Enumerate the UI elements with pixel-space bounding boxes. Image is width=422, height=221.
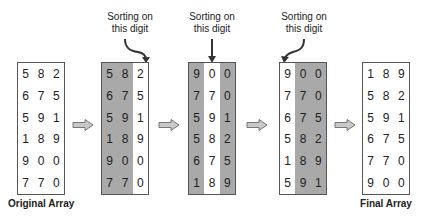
digit-cell: 7 xyxy=(102,172,117,194)
right-arrow-icon xyxy=(72,119,94,131)
step2-array-box: 900770591582675189 xyxy=(188,62,236,195)
digit-cell: 6 xyxy=(363,129,378,151)
annotation-line1: Sorting on xyxy=(269,11,339,23)
step1-array-box: 582675591189900770 xyxy=(101,62,149,195)
digit-cell: 5 xyxy=(189,107,204,129)
digit-cell: 2 xyxy=(394,85,409,107)
digit-cell: 1 xyxy=(49,107,64,129)
digit-cell: 0 xyxy=(394,150,409,172)
digit-cell: 0 xyxy=(394,172,409,194)
digit-cell: 2 xyxy=(220,129,235,151)
digit-cell: 7 xyxy=(117,172,132,194)
digit-cell: 5 xyxy=(189,129,204,151)
digit-cell: 0 xyxy=(295,63,310,85)
digit-cell: 5 xyxy=(102,63,117,85)
digit-cell: 5 xyxy=(49,85,64,107)
digit-cell: 5 xyxy=(280,172,295,194)
digit-cell: 0 xyxy=(204,63,219,85)
digit-cell: 0 xyxy=(133,172,148,194)
digit-cell: 1 xyxy=(189,172,204,194)
digit-cell: 5 xyxy=(363,107,378,129)
digit-cell: 1 xyxy=(311,172,326,194)
digit-cell: 7 xyxy=(295,107,310,129)
curved-pointer-arrow-icon xyxy=(280,38,310,64)
right-arrow-icon xyxy=(334,119,356,131)
sorting-annotation-step3: Sorting on this digit xyxy=(269,11,339,35)
digit-cell: 8 xyxy=(378,85,393,107)
step3-array-box: 900770675582189591 xyxy=(279,62,327,195)
digit-cell: 9 xyxy=(363,172,378,194)
digit-cell: 7 xyxy=(378,129,393,151)
digit-cell: 9 xyxy=(220,172,235,194)
digit-cell: 1 xyxy=(394,107,409,129)
digit-cell: 8 xyxy=(378,63,393,85)
digit-cell: 9 xyxy=(102,150,117,172)
digit-cell: 9 xyxy=(378,107,393,129)
digit-cell: 5 xyxy=(363,85,378,107)
digit-cell: 9 xyxy=(311,150,326,172)
digit-cell: 0 xyxy=(378,172,393,194)
digit-cell: 1 xyxy=(102,129,117,151)
digit-cell: 5 xyxy=(220,150,235,172)
sorting-annotation-step2: Sorting on this digit xyxy=(177,11,247,35)
digit-cell: 7 xyxy=(204,150,219,172)
digit-cell: 7 xyxy=(204,85,219,107)
digit-cell: 8 xyxy=(33,63,48,85)
digit-cell: 9 xyxy=(18,150,33,172)
digit-cell: 8 xyxy=(204,129,219,151)
original-array-caption: Original Array xyxy=(8,198,74,209)
original-array-box: 582675591189900770 xyxy=(17,62,65,195)
digit-cell: 2 xyxy=(133,63,148,85)
digit-cell: 1 xyxy=(133,107,148,129)
digit-cell: 7 xyxy=(295,85,310,107)
digit-cell: 9 xyxy=(295,172,310,194)
digit-cell: 9 xyxy=(204,107,219,129)
digit-cell: 0 xyxy=(33,150,48,172)
down-pointer-arrow-icon xyxy=(207,38,217,64)
digit-cell: 7 xyxy=(18,172,33,194)
final-array-box: 189582591675770900 xyxy=(362,62,410,195)
digit-cell: 5 xyxy=(394,129,409,151)
digit-cell: 5 xyxy=(311,107,326,129)
right-arrow-icon xyxy=(158,119,180,131)
digit-cell: 5 xyxy=(18,107,33,129)
digit-cell: 6 xyxy=(189,150,204,172)
digit-cell: 1 xyxy=(280,150,295,172)
digit-cell: 7 xyxy=(363,150,378,172)
digit-cell: 5 xyxy=(18,63,33,85)
digit-cell: 9 xyxy=(189,63,204,85)
digit-cell: 0 xyxy=(220,85,235,107)
digit-cell: 0 xyxy=(311,85,326,107)
right-arrow-icon xyxy=(246,119,268,131)
digit-cell: 0 xyxy=(49,172,64,194)
digit-cell: 8 xyxy=(295,150,310,172)
digit-cell: 9 xyxy=(133,129,148,151)
digit-cell: 6 xyxy=(18,85,33,107)
annotation-line1: Sorting on xyxy=(177,11,247,23)
sorting-annotation-step1: Sorting on this digit xyxy=(95,11,165,35)
digit-cell: 9 xyxy=(33,107,48,129)
curved-pointer-arrow-icon xyxy=(122,38,152,64)
digit-cell: 6 xyxy=(102,85,117,107)
digit-cell: 1 xyxy=(363,63,378,85)
digit-cell: 8 xyxy=(117,129,132,151)
digit-cell: 2 xyxy=(311,129,326,151)
annotation-line1: Sorting on xyxy=(95,11,165,23)
annotation-line2: this digit xyxy=(95,23,165,35)
digit-cell: 7 xyxy=(33,85,48,107)
digit-cell: 7 xyxy=(33,172,48,194)
digit-cell: 0 xyxy=(133,150,148,172)
digit-cell: 1 xyxy=(18,129,33,151)
digit-cell: 8 xyxy=(295,129,310,151)
digit-cell: 8 xyxy=(204,172,219,194)
digit-cell: 0 xyxy=(49,150,64,172)
digit-cell: 6 xyxy=(280,107,295,129)
digit-cell: 7 xyxy=(378,150,393,172)
digit-cell: 9 xyxy=(280,63,295,85)
digit-cell: 5 xyxy=(102,107,117,129)
digit-cell: 9 xyxy=(49,129,64,151)
digit-cell: 5 xyxy=(280,129,295,151)
annotation-line2: this digit xyxy=(269,23,339,35)
digit-cell: 9 xyxy=(117,107,132,129)
digit-cell: 2 xyxy=(49,63,64,85)
